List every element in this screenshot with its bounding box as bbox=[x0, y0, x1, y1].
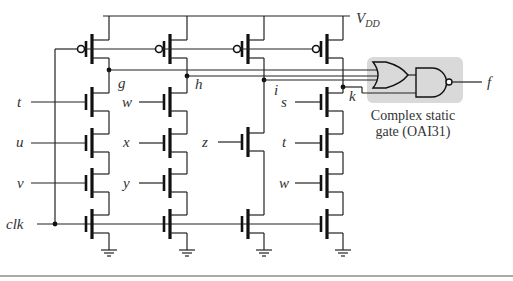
input-label: z bbox=[201, 134, 208, 150]
vdd-rail: VDD bbox=[103, 10, 380, 29]
inversion-bubble-icon bbox=[78, 46, 85, 53]
input-label: y bbox=[121, 175, 130, 191]
inversion-bubble-icon bbox=[156, 46, 163, 53]
nmos-stack-k: s t w bbox=[279, 87, 351, 256]
inversion-bubble-icon bbox=[446, 79, 452, 85]
input-label: t bbox=[282, 134, 287, 150]
input-label: x bbox=[122, 134, 130, 150]
pmos-precharge-g bbox=[78, 16, 110, 70]
inversion-bubble-icon bbox=[313, 46, 320, 53]
vdd-label: VDD bbox=[356, 10, 380, 29]
gate-caption-line1: Complex static bbox=[371, 108, 455, 123]
input-label: u bbox=[16, 134, 24, 150]
gate-caption-line2: gate (OAI31) bbox=[375, 124, 450, 140]
output-label-f: f bbox=[487, 74, 493, 90]
input-label: s bbox=[281, 94, 287, 110]
ground-icon bbox=[335, 250, 351, 256]
nmos-stack-g: t u v bbox=[16, 70, 117, 256]
pmos-precharge-h bbox=[156, 16, 188, 76]
input-label: w bbox=[279, 175, 289, 191]
node-label-i: i bbox=[274, 82, 278, 98]
node-label-h: h bbox=[195, 76, 203, 92]
input-label: t bbox=[17, 94, 22, 110]
input-label: w bbox=[122, 94, 132, 110]
node-label-k: k bbox=[349, 88, 356, 104]
ground-icon bbox=[101, 250, 117, 256]
ground-icon bbox=[256, 250, 272, 256]
inversion-bubble-icon bbox=[234, 46, 241, 53]
nmos-stack-h: w x y bbox=[121, 76, 195, 256]
input-label: v bbox=[17, 175, 24, 191]
circuit-diagram: VDD bbox=[0, 0, 513, 281]
ground-icon bbox=[179, 250, 195, 256]
node-label-g: g bbox=[118, 75, 126, 91]
nmos-stack-i: z bbox=[201, 80, 272, 256]
clk-label: clk bbox=[6, 216, 24, 232]
